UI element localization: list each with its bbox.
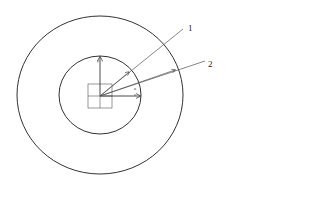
angle-label: α <box>134 87 136 91</box>
axis-label-x: x <box>134 93 136 97</box>
label-2: 2 <box>208 60 213 69</box>
label-1: 1 <box>188 24 193 33</box>
axis-label-y: y <box>97 59 99 63</box>
